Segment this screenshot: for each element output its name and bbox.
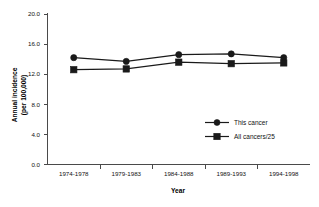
y-axis-title: Annual incidence (per 100,000)	[11, 67, 28, 122]
x-axis-ticks	[100, 165, 258, 169]
x-axis-title: Year	[171, 187, 185, 194]
data-point-circle	[71, 55, 77, 61]
y-axis-ticks: 0.04.08.012.016.020.0	[28, 10, 48, 168]
x-tick-label: 1979-1983	[111, 170, 141, 177]
legend-item-all-cancers: All cancers/25	[205, 133, 275, 140]
x-axis: 1974-19781979-19831984-19881989-19931994…	[47, 165, 310, 178]
y-tick-label: 20.0	[28, 10, 41, 17]
y-tick-label: 12.0	[28, 70, 41, 77]
legend-marker-circle-icon	[214, 120, 220, 126]
legend-marker-square-icon	[214, 133, 220, 139]
line-chart: 0.04.08.012.016.020.0 1974-19781979-1983…	[0, 0, 319, 207]
x-tick-label: 1994-1998	[269, 170, 299, 177]
x-axis-tick-labels: 1974-19781979-19831984-19881989-19931994…	[59, 170, 299, 177]
data-point-circle	[123, 58, 129, 64]
x-tick-label: 1974-1978	[59, 170, 89, 177]
y-axis: 0.04.08.012.016.020.0	[28, 10, 48, 168]
data-point-square	[123, 66, 129, 72]
legend-item-this-cancer: This cancer	[205, 119, 268, 126]
y-axis-title-line1: Annual incidence	[11, 67, 18, 122]
y-axis-title-line2: (per 100,000)	[20, 75, 28, 115]
data-point-square	[281, 60, 287, 66]
x-tick-label: 1989-1993	[216, 170, 246, 177]
data-point-circle	[228, 51, 234, 57]
y-tick-label: 8.0	[31, 101, 40, 108]
data-point-square	[176, 59, 182, 65]
y-tick-label: 16.0	[28, 40, 41, 47]
series-layer	[71, 51, 287, 73]
data-point-circle	[176, 52, 182, 58]
chart-figure: 0.04.08.012.016.020.0 1974-19781979-1983…	[0, 0, 319, 207]
chart-legend: This cancer All cancers/25	[205, 119, 275, 140]
series-2	[71, 59, 287, 73]
data-point-square	[228, 60, 234, 66]
data-point-square	[71, 66, 77, 72]
y-tick-label: 4.0	[31, 131, 40, 138]
y-tick-label: 0.0	[31, 161, 40, 168]
legend-label-all-cancers: All cancers/25	[234, 133, 275, 140]
legend-label-this-cancer: This cancer	[234, 119, 268, 126]
x-tick-label: 1984-1988	[164, 170, 194, 177]
